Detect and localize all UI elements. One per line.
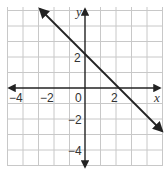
x-tick-neg2: −2 bbox=[40, 91, 54, 105]
y-tick-2: 2 bbox=[74, 51, 81, 65]
y-tick-neg2: −2 bbox=[68, 113, 82, 127]
y-tick-neg4: −4 bbox=[68, 144, 82, 158]
axes bbox=[9, 9, 160, 167]
origin-label: 0 bbox=[75, 91, 82, 105]
x-tick-neg4: −4 bbox=[9, 91, 23, 105]
coordinate-plane: y x −4 −2 0 2 2 −2 −4 bbox=[0, 0, 164, 171]
x-axis-label: x bbox=[153, 90, 160, 105]
x-tick-2: 2 bbox=[111, 91, 118, 105]
y-axis-label: y bbox=[74, 4, 82, 19]
